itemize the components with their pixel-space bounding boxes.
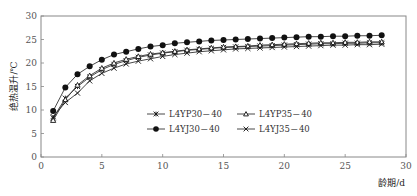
y-axis-title: 绝热温升/℃: [8, 61, 19, 110]
circle-marker-icon: [367, 33, 373, 39]
circle-marker-icon: [135, 46, 141, 52]
circle-marker-icon: [208, 37, 214, 43]
x-marker-icon: [75, 90, 80, 95]
y-tick-label: 10: [26, 105, 38, 115]
circle-marker-icon: [148, 44, 154, 50]
x-tick-label: 0: [38, 161, 44, 171]
y-tick-label: 25: [26, 35, 38, 45]
x-tick-label: 25: [339, 161, 351, 171]
circle-marker-icon: [111, 52, 117, 58]
legend-item: L4YP35－40: [237, 109, 312, 119]
legend-label: L4YJ30－40: [169, 124, 220, 134]
series-line: [53, 44, 382, 116]
circle-marker-icon: [172, 40, 178, 46]
circle-marker-icon: [50, 108, 56, 114]
x-tick-label: 20: [279, 161, 291, 171]
legend-label: L4YJ35－40: [259, 124, 310, 134]
circle-marker-icon: [318, 34, 324, 40]
circle-marker-icon: [184, 39, 190, 45]
legend-item: L4YJ35－40: [237, 124, 310, 134]
y-tick-label: 30: [26, 11, 38, 21]
circle-marker-icon: [330, 33, 336, 39]
y-tick-label: 15: [26, 82, 38, 92]
legend-label: L4YP30－40: [169, 109, 222, 119]
circle-marker-icon: [257, 36, 263, 42]
y-tick-label: 0: [31, 152, 37, 162]
circle-marker-icon: [75, 71, 81, 77]
legend-label: L4YP35－40: [259, 109, 312, 119]
series-L4YJ35－40: [51, 42, 385, 120]
circle-marker-icon: [245, 36, 251, 42]
adiabatic-temperature-rise-chart: 051015202530051015202530 L4YP30－40L4YP35…: [0, 0, 417, 196]
y-tick-label: 20: [26, 58, 38, 68]
triangle-marker-icon: [244, 112, 249, 116]
circle-marker-icon: [153, 126, 159, 132]
x-tick-label: 15: [218, 161, 230, 171]
x-tick-label: 10: [157, 161, 169, 171]
circle-marker-icon: [269, 35, 275, 41]
circle-marker-icon: [62, 84, 68, 90]
circle-marker-icon: [281, 35, 287, 41]
axis-ticks: 051015202530051015202530: [26, 11, 412, 171]
x-tick-label: 30: [400, 161, 412, 171]
legend-item: L4YP30－40: [147, 109, 222, 119]
legend: L4YP30－40L4YP35－40L4YJ30－40L4YJ35－40: [147, 109, 312, 134]
circle-marker-icon: [99, 57, 105, 63]
circle-marker-icon: [306, 34, 312, 40]
circle-marker-icon: [233, 37, 239, 43]
circle-marker-icon: [196, 38, 202, 44]
circle-marker-icon: [160, 42, 166, 48]
y-tick-label: 5: [31, 129, 37, 139]
circle-marker-icon: [87, 63, 93, 69]
series-line: [53, 43, 382, 118]
circle-marker-icon: [294, 34, 300, 40]
x-tick-label: 5: [99, 161, 105, 171]
circle-marker-icon: [342, 33, 348, 39]
circle-marker-icon: [354, 33, 360, 39]
circle-marker-icon: [221, 37, 227, 43]
x-axis-title: 龄期/d: [378, 177, 405, 188]
circle-marker-icon: [379, 32, 385, 38]
circle-marker-icon: [123, 49, 129, 55]
legend-item: L4YJ30－40: [147, 124, 220, 134]
